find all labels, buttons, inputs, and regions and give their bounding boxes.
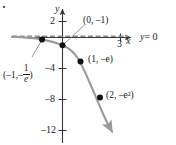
point-neg1 bbox=[39, 37, 45, 43]
x-axis-label: x bbox=[126, 36, 130, 46]
asymptote-label: y= 0 bbox=[140, 32, 158, 42]
asymptote-label-value: = 0 bbox=[144, 31, 157, 42]
point-2 bbox=[97, 95, 103, 101]
leader-line-origin bbox=[65, 25, 85, 44]
fraction-numerator: 1 bbox=[23, 64, 30, 74]
x-axis bbox=[20, 34, 131, 42]
point-label-neg1-x: (–1, bbox=[3, 70, 18, 80]
y-tick-label-neg4: –4 bbox=[45, 63, 55, 73]
point-0 bbox=[60, 42, 66, 48]
point-label-neg1-close: ) bbox=[30, 70, 33, 80]
point-label-2: (2, –e²) bbox=[106, 91, 134, 101]
point-1 bbox=[78, 59, 84, 65]
x-tick-label-3: 3 bbox=[117, 39, 122, 49]
point-label-neg1: (–1,–1e) bbox=[3, 64, 33, 84]
y-tick-label-2: 2 bbox=[50, 16, 55, 26]
y-axis-label: y bbox=[55, 4, 59, 14]
point-label-1: (1, –e) bbox=[88, 55, 113, 65]
exponential-graph-figure: y x 2 –4 –8 –12 3 y= 0 (–1,–1e) (0, –1) … bbox=[0, 0, 176, 145]
y-tick-label-neg12: –12 bbox=[41, 125, 56, 135]
point-label-0: (0, –1) bbox=[83, 16, 108, 26]
leader-line-neg1 bbox=[32, 42, 41, 58]
y-axis bbox=[59, 9, 67, 143]
y-tick-label-neg8: –8 bbox=[45, 94, 55, 104]
point-label-neg1-fraction: 1e bbox=[23, 64, 30, 84]
fraction-denominator: e bbox=[23, 74, 30, 85]
